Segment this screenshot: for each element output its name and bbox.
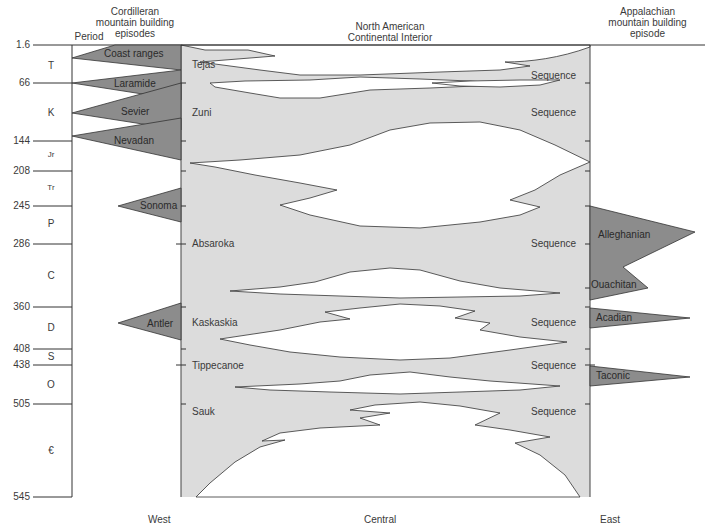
episode-sonoma: Sonoma — [140, 200, 177, 211]
age-label: 66 — [0, 77, 30, 88]
period-label: P — [36, 218, 66, 229]
age-label: 1.6 — [0, 39, 30, 50]
period-label: Jr — [36, 150, 66, 159]
sequence-suffix: Sequence — [531, 70, 576, 81]
period-label: € — [36, 445, 66, 456]
appalachian-header-line1: Appalachian — [590, 6, 705, 17]
period-label: K — [36, 107, 66, 118]
sequence-kaskaskia: Kaskaskia — [192, 317, 238, 328]
cordilleran-header: Cordilleran mountain building episodes — [80, 6, 190, 39]
age-label: 438 — [0, 359, 30, 370]
sequence-tippecanoe: Tippecanoe — [192, 360, 244, 371]
direction-west: West — [148, 514, 171, 525]
period-label: C — [36, 270, 66, 281]
direction-central: Central — [364, 514, 396, 525]
period-label: D — [36, 322, 66, 333]
interior-header: North American Continental Interior — [320, 21, 460, 43]
sequence-tejas: Tejas — [192, 59, 215, 70]
period-label: S — [36, 351, 66, 362]
age-label: 245 — [0, 200, 30, 211]
interior-header-line2: Continental Interior — [320, 32, 460, 43]
sequence-suffix: Sequence — [531, 406, 576, 417]
sequence-sauk: Sauk — [192, 406, 215, 417]
episode-taconic: Taconic — [596, 370, 630, 381]
age-label: 408 — [0, 343, 30, 354]
appalachian-header-line2: mountain building — [590, 17, 705, 28]
episode-alleghanian: Alleghanian — [598, 229, 650, 240]
episode-laramide: Laramide — [114, 78, 156, 89]
cordilleran-header-line1: Cordilleran — [80, 6, 190, 17]
period-label: T — [36, 60, 66, 71]
period-label: Tr — [36, 183, 66, 192]
episode-ouachitan: Ouachitan — [591, 279, 637, 290]
age-label: 360 — [0, 301, 30, 312]
sequence-zuni: Zuni — [192, 107, 211, 118]
appalachian-header-line3: episode — [590, 28, 705, 39]
cordilleran-header-line3: episodes — [80, 28, 190, 39]
period-label: O — [36, 379, 66, 390]
age-label: 286 — [0, 238, 30, 249]
sequence-suffix: Sequence — [531, 238, 576, 249]
episode-antler: Antler — [147, 318, 173, 329]
episode-acadian: Acadian — [596, 312, 632, 323]
sequence-suffix: Sequence — [531, 317, 576, 328]
sequence-suffix: Sequence — [531, 107, 576, 118]
interior-header-line1: North American — [320, 21, 460, 32]
age-label: 144 — [0, 135, 30, 146]
stratigraphic-diagram — [0, 0, 705, 532]
sequence-suffix: Sequence — [531, 360, 576, 371]
episode-sevier: Sevier — [121, 106, 149, 117]
age-label: 505 — [0, 398, 30, 409]
cordilleran-wedges — [72, 45, 181, 340]
cordilleran-header-line2: mountain building — [80, 17, 190, 28]
age-label: 545 — [0, 491, 30, 502]
episode-coast-ranges: Coast ranges — [104, 48, 163, 59]
direction-east: East — [600, 514, 620, 525]
age-label: 208 — [0, 165, 30, 176]
episode-nevadan: Nevadan — [114, 135, 154, 146]
appalachian-header: Appalachian mountain building episode — [590, 6, 705, 39]
sequence-absaroka: Absaroka — [192, 238, 234, 249]
